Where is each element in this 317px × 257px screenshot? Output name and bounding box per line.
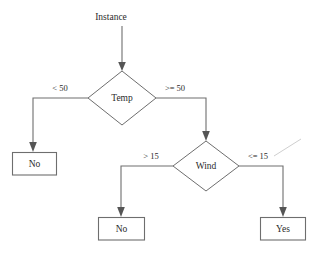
edge-temp-left <box>33 98 88 144</box>
edge-label-wind-left: > 15 <box>143 151 158 161</box>
arrowhead-temp-right <box>202 131 210 141</box>
leaf-node-yes-label: Yes <box>276 224 290 234</box>
edge-wind-left <box>121 166 173 209</box>
decision-tree-diagram: Instance Temp < 50 >= 50 No Wind > 15 <=… <box>0 0 317 257</box>
arrowhead-temp-left <box>29 142 37 152</box>
edge-label-temp-left: < 50 <box>52 83 67 93</box>
arrowhead-instance-to-temp <box>118 62 126 71</box>
decision-node-wind-label: Wind <box>196 161 217 171</box>
decision-node-temp-label: Temp <box>111 93 133 103</box>
decision-tree-canvas: Instance Temp < 50 >= 50 No Wind > 15 <=… <box>0 0 317 257</box>
edge-temp-right <box>156 98 206 133</box>
edge-label-temp-right: >= 50 <box>165 83 185 93</box>
edge-label-wind-right: <= 15 <box>248 151 268 161</box>
leaf-node-no-left-label: No <box>29 159 41 169</box>
arrowhead-wind-left <box>117 207 125 217</box>
arrowhead-wind-right <box>279 207 287 217</box>
edge-wind-right <box>239 166 283 209</box>
scan-artifact-line <box>274 139 301 156</box>
leaf-node-no-bottom-label: No <box>116 224 128 234</box>
root-input-label: Instance <box>95 12 127 22</box>
